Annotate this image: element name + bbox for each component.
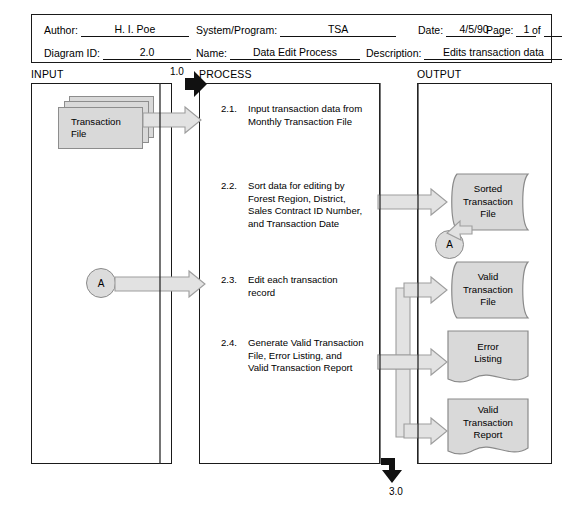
process-step-2-4: 2.4. Generate Valid Transaction File, Er…: [221, 337, 373, 375]
field-author-label: Author:: [44, 25, 78, 37]
process-step-2-1-text: Input transaction data from Monthly Tran…: [248, 103, 373, 128]
column-caption-output: OUTPUT: [417, 68, 461, 80]
process-step-2-2-number: 2.2.: [221, 180, 243, 193]
field-description-value: Edits transaction data: [424, 47, 562, 60]
valid-transaction-report-shape[interactable]: Valid Transaction Report: [447, 398, 529, 460]
process-step-2-2-text: Sort data for editing by Forest Region, …: [248, 180, 373, 230]
process-step-2-1-number: 2.1.: [221, 103, 243, 116]
header-row-2: Diagram ID: 2.0 Name: Data Edit Process …: [32, 40, 551, 64]
connector-a-output-label: A: [446, 239, 453, 250]
entry-tag-1-0: 1.0: [170, 66, 184, 77]
field-name[interactable]: Name: Data Edit Process: [196, 40, 360, 60]
field-author-value: H. I. Poe: [81, 24, 189, 37]
field-diagram-id[interactable]: Diagram ID: 2.0: [44, 40, 191, 60]
field-page-of-label: of: [532, 25, 541, 37]
process-step-2-2: 2.2. Sort data for editing by Forest Reg…: [221, 180, 373, 230]
process-step-2-4-number: 2.4.: [221, 337, 243, 350]
connector-a-output[interactable]: A: [435, 230, 464, 259]
field-system-program-value: TSA: [280, 24, 396, 37]
field-page[interactable]: Page: 1: [486, 17, 536, 37]
column-caption-process: PROCESS: [199, 68, 252, 80]
process-step-2-3-text: Edit each transaction record: [248, 274, 373, 299]
field-date-label: Date:: [418, 25, 443, 37]
sorted-transaction-file-shape[interactable]: Sorted Transaction File: [447, 173, 529, 231]
exit-tag-3-0: 3.0: [389, 486, 403, 497]
field-description[interactable]: Description: Edits transaction data: [366, 40, 562, 60]
field-diagram-id-value: 2.0: [103, 47, 191, 60]
connector-a-input-label: A: [98, 278, 105, 289]
field-name-label: Name:: [196, 48, 227, 60]
field-diagram-id-label: Diagram ID:: [44, 48, 100, 60]
diagram-page: Author: H. I. Poe System/Program: TSA Da…: [0, 0, 585, 514]
exit-arrow-3-0: [381, 458, 402, 483]
connector-a-input[interactable]: A: [86, 268, 116, 298]
column-caption-input: INPUT: [31, 68, 64, 80]
field-author[interactable]: Author: H. I. Poe: [44, 17, 189, 37]
transaction-file-shape[interactable]: Transaction File: [58, 96, 154, 158]
field-page-label: Page:: [486, 25, 513, 37]
process-step-2-3-number: 2.3.: [221, 274, 243, 287]
field-page-of-value: [544, 35, 562, 37]
field-system-program[interactable]: System/Program: TSA: [196, 17, 396, 37]
field-page-of[interactable]: of: [532, 17, 562, 37]
field-system-program-label: System/Program:: [196, 25, 277, 37]
field-description-label: Description:: [366, 48, 421, 60]
file-sheet-front: [58, 107, 143, 149]
field-name-value: Data Edit Process: [230, 47, 360, 60]
process-step-2-3: 2.3. Edit each transaction record: [221, 274, 373, 299]
valid-transaction-file-shape[interactable]: Valid Transaction File: [447, 261, 529, 319]
process-step-2-1: 2.1. Input transaction data from Monthly…: [221, 103, 373, 128]
diagram-header-form: Author: H. I. Poe System/Program: TSA Da…: [31, 14, 552, 63]
header-row-1: Author: H. I. Poe System/Program: TSA Da…: [32, 17, 551, 41]
error-listing-shape[interactable]: Error Listing: [447, 330, 529, 386]
process-step-2-4-text: Generate Valid Transaction File, Error L…: [248, 337, 373, 375]
